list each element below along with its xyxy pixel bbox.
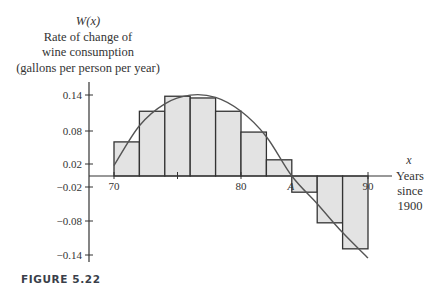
- y-tick-label: −0.08: [57, 215, 83, 227]
- bar: [317, 176, 342, 223]
- y-tick-label: 0.08: [63, 125, 83, 137]
- figure-label: FIGURE 5.22: [21, 273, 101, 285]
- y-tick-label: −0.02: [57, 181, 82, 193]
- point-a-label: A: [286, 180, 294, 192]
- bar: [190, 98, 215, 176]
- x-tick-label: 70: [109, 180, 121, 192]
- chart-plot: 0.140.080.02−0.02−0.08−0.14708090AxYears…: [0, 0, 431, 294]
- bar: [266, 160, 291, 176]
- x-title-line1: Years: [396, 169, 424, 183]
- x-title-line3: 1900: [398, 199, 423, 213]
- x-title-line2: since: [397, 184, 423, 198]
- bar: [216, 111, 241, 176]
- y-tick-label: 0.02: [63, 158, 82, 170]
- y-tick-label: −0.14: [57, 249, 83, 261]
- x-tick-label: 80: [236, 180, 248, 192]
- x-var-label: x: [405, 153, 412, 167]
- bar: [241, 132, 266, 176]
- y-tick-label: 0.14: [63, 89, 83, 101]
- x-tick-label: 90: [363, 180, 375, 192]
- bar: [165, 96, 190, 176]
